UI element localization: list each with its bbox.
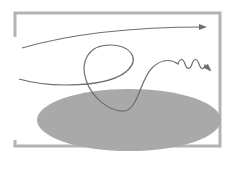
diagram-svg xyxy=(0,0,228,179)
gray-region-ellipse xyxy=(37,89,221,151)
trajectory-diagram xyxy=(0,0,228,179)
